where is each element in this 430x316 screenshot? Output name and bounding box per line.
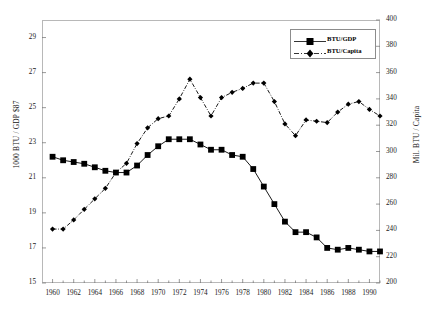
legend-item-btu-gdp: BTU/GDP [293, 32, 373, 44]
legend-label-btu-gdp: BTU/GDP [327, 35, 356, 42]
legend-label-btu-capita: BTU/Capita [327, 47, 361, 54]
legend-swatch-btu-gdp [293, 33, 327, 44]
chart-figure: 1000 BTU / GDP $87 Mil. BTU / Capita 151… [0, 0, 430, 316]
chart-legend: BTU/GDP BTU/Capita [290, 29, 376, 59]
legend-item-btu-capita: BTU/Capita [293, 44, 373, 56]
legend-swatch-btu-capita [293, 45, 327, 56]
